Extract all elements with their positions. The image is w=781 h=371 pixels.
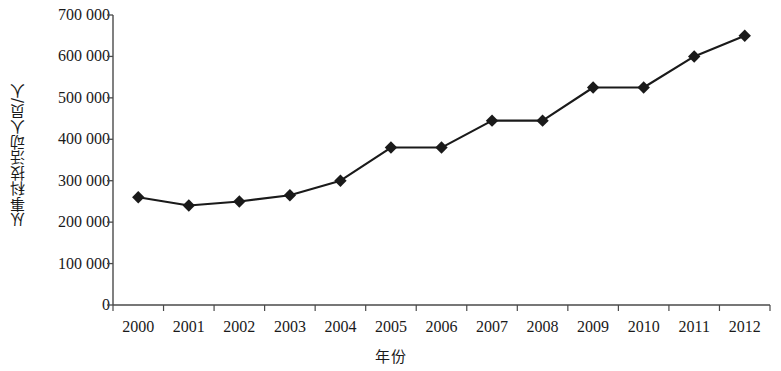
x-tick-label: 2003 [274, 319, 306, 335]
x-tick-label: 2000 [122, 319, 154, 335]
x-tick-label: 2009 [577, 319, 609, 335]
x-tick-label: 2011 [678, 319, 709, 335]
x-tick-label: 2006 [426, 319, 458, 335]
x-tick-label: 2004 [324, 319, 356, 335]
x-tick-label: 2007 [476, 319, 508, 335]
x-tick-label: 2005 [375, 319, 407, 335]
x-axis-title: 年份 [0, 345, 781, 366]
x-tick-label: 2008 [527, 319, 559, 335]
line-chart: 从事科技活动人员/人 0100 000200 000300 000400 000… [0, 0, 781, 371]
x-tick-label: 2012 [729, 319, 761, 335]
x-tick-label: 2001 [173, 319, 205, 335]
x-tick-label: 2010 [628, 319, 660, 335]
x-axis-tick-labels: 2000200120022003200420052006200720082009… [0, 0, 781, 371]
x-tick-label: 2002 [223, 319, 255, 335]
